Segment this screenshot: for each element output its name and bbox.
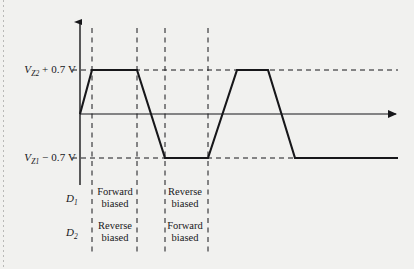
diode-d2-sub: 2 bbox=[74, 232, 78, 241]
upper-level-label: VZ2 + 0.7 V bbox=[24, 63, 76, 78]
d2-region1-bias-line1: Reverse bbox=[92, 220, 138, 232]
d1-region1-bias-note: Forward biased bbox=[92, 186, 138, 209]
d2-region2-bias-note: Forward biased bbox=[162, 220, 208, 243]
d1-region2-bias-line1: Reverse bbox=[162, 186, 208, 198]
d1-region2-bias-line2: biased bbox=[162, 198, 208, 210]
diode-d1-label: D1 bbox=[66, 192, 78, 207]
d2-region2-bias-line1: Forward bbox=[162, 220, 208, 232]
d1-region1-bias-line2: biased bbox=[92, 198, 138, 210]
lower-level-label: VZ1 − 0.7 V bbox=[24, 151, 76, 166]
diode-d2-label: D2 bbox=[66, 226, 78, 241]
d2-region2-bias-line2: biased bbox=[162, 232, 208, 244]
d1-region1-bias-line1: Forward bbox=[92, 186, 138, 198]
d2-region1-bias-line2: biased bbox=[92, 232, 138, 244]
d2-region1-bias-note: Reverse biased bbox=[92, 220, 138, 243]
diode-d1-symbol: D bbox=[66, 192, 74, 204]
lower-level-label-suffix: − 0.7 V bbox=[39, 151, 76, 163]
upper-level-label-suffix: + 0.7 V bbox=[39, 63, 76, 75]
page-margin-rule bbox=[3, 0, 4, 269]
diode-d1-sub: 1 bbox=[74, 198, 78, 207]
d1-region2-bias-note: Reverse biased bbox=[162, 186, 208, 209]
zener-clipper-waveform-figure: VZ2 + 0.7 V VZ1 − 0.7 V D1 D2 Forward bi… bbox=[0, 0, 414, 269]
diode-d2-symbol: D bbox=[66, 226, 74, 238]
